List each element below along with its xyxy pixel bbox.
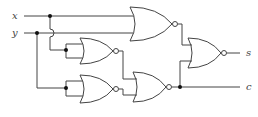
output-label-s: s [246,47,251,58]
junction-g3 [64,86,68,90]
logic-circuit-diagram: x y [0,0,258,117]
wire-y [24,33,136,88]
nor-gate-4 [133,72,172,102]
junction-x [48,14,52,18]
nor-gate-5 [188,38,227,68]
junction-y [35,31,39,35]
input-label-x: x [12,10,18,21]
junction-g2 [64,48,68,52]
input-label-y: y [11,27,18,38]
wire-g3-to-g4 [119,89,137,95]
nor-gate-3 [80,75,119,103]
junction-c [178,85,182,89]
nor-gate-1 [130,7,178,41]
nor-gate-2 [80,38,119,64]
output-label-c: c [246,81,252,92]
